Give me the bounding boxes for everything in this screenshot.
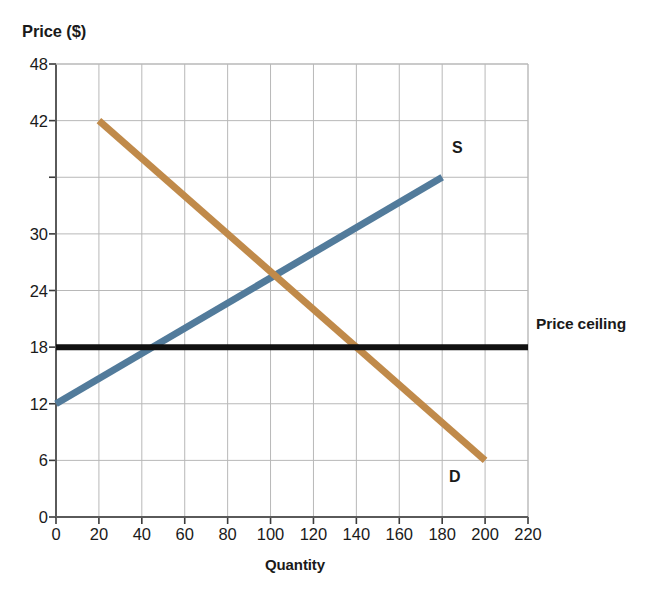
demand-curve-label: D	[449, 468, 461, 486]
x-tick-label: 120	[300, 525, 328, 544]
y-axis-title: Price ($)	[22, 22, 86, 41]
plot-area	[56, 64, 528, 517]
x-tick-label: 220	[514, 525, 542, 544]
supply-demand-chart: Price ($) 48423024181260 020406080100120…	[0, 0, 656, 592]
x-tick-label: 100	[257, 525, 285, 544]
x-tick-label: 60	[176, 525, 194, 544]
y-tick-label: 42	[2, 111, 48, 130]
y-tick-label: 18	[2, 338, 48, 357]
y-tick-label: 6	[2, 451, 48, 470]
x-tick-label: 140	[343, 525, 371, 544]
x-axis-title: Quantity	[0, 556, 590, 573]
y-tick-label: 12	[2, 394, 48, 413]
y-tick-label: 24	[2, 281, 48, 300]
x-tick-label: 200	[471, 525, 499, 544]
x-tick-label: 180	[428, 525, 456, 544]
y-tick-label: 0	[2, 508, 48, 527]
x-tick-label: 40	[133, 525, 151, 544]
x-tick-label: 80	[218, 525, 236, 544]
plot-canvas	[56, 64, 528, 517]
x-axis-tick-labels: 020406080100120140160180200220	[56, 525, 528, 551]
y-tick-label: 30	[2, 224, 48, 243]
y-axis-tick-labels: 48423024181260	[0, 64, 48, 517]
x-tick-label: 0	[51, 525, 60, 544]
x-tick-label: 160	[386, 525, 414, 544]
tick-marks	[49, 64, 528, 524]
supply-curve-label: S	[452, 139, 463, 157]
x-tick-label: 20	[90, 525, 108, 544]
price-ceiling-label: Price ceiling	[536, 315, 626, 333]
y-tick-label: 48	[2, 55, 48, 74]
